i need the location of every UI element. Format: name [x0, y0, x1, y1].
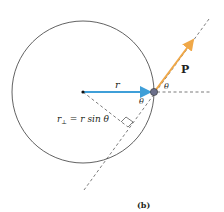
angular-momentum-diagram: r P θ θ r⊥ = r sin θ (b): [0, 0, 224, 212]
particle: [150, 88, 157, 95]
radius-label: r: [115, 79, 121, 90]
angle-outer-label: θ: [164, 82, 169, 91]
angle-inner-label: θ: [139, 97, 144, 106]
perp-rhs: = r sin θ: [67, 114, 110, 124]
figure-caption: (b): [137, 200, 150, 210]
center-point: [81, 90, 84, 93]
right-angle-marker: [121, 117, 133, 127]
perpendicular-distance-formula: r⊥ = r sin θ: [57, 114, 110, 125]
momentum-label: P: [181, 63, 189, 76]
